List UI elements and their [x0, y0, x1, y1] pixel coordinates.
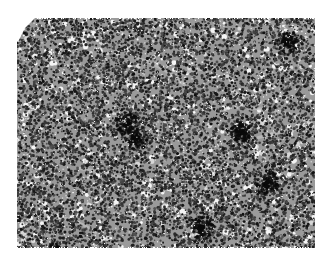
image-description: Grayscale histology micrograph showing a…	[0, 0, 1, 1]
histology-micrograph	[17, 18, 315, 248]
figure: Grayscale histology micrograph showing a…	[0, 0, 327, 260]
